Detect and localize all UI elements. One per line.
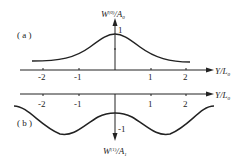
y-axis-label-a: W(0)/A0	[101, 9, 125, 20]
x-tick-label: -2	[38, 72, 46, 82]
x-axis-arrow-a	[206, 68, 214, 73]
y-axis-arrow-b	[113, 133, 118, 141]
x-axis-arrow-b	[206, 92, 214, 97]
x-axis-label-a: Y/L0	[215, 66, 231, 77]
x-tick-label: 1	[148, 99, 153, 109]
panel-a: -2 -1 1 2 1 ( a ) W(0)/A0 Y/L0	[17, 9, 231, 82]
panel-label-a: ( a )	[17, 30, 32, 40]
x-tick-label: 1	[148, 72, 153, 82]
y-axis-label-b: W(1)/A1	[103, 146, 127, 157]
x-tick-label: -1	[74, 72, 82, 82]
y-tick-label: -1	[118, 124, 126, 134]
x-axis-label-b: Y/L0	[215, 90, 231, 101]
x-tick-label: -1	[74, 99, 82, 109]
curve-b	[14, 106, 214, 134]
curve-a	[32, 34, 190, 62]
panel-b: -2 -1 1 2 -1 ( b ) W(1)/A1 Y/L0	[14, 90, 231, 157]
y-axis-arrow-a	[113, 18, 118, 26]
y-tick-label: 1	[118, 25, 123, 35]
diagram: -2 -1 1 2 1 ( a ) W(0)/A0 Y/L0 -2 -1 1 2…	[0, 0, 245, 164]
x-tick-label: 2	[183, 72, 188, 82]
x-tick-label: -2	[38, 99, 46, 109]
panel-label-b: ( b )	[17, 118, 32, 128]
x-tick-label: 2	[183, 99, 188, 109]
